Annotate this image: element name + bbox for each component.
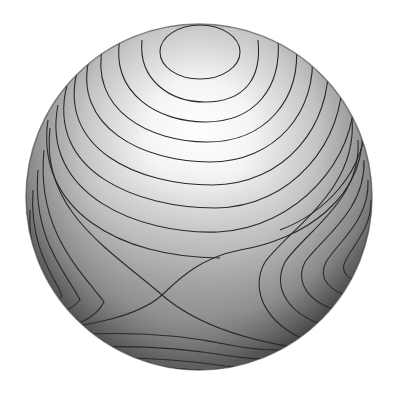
figure: Contour lines of a function on the spher…: [0, 0, 398, 398]
sphere-lower-shade: [26, 24, 372, 370]
sphere-plot: [0, 0, 398, 398]
